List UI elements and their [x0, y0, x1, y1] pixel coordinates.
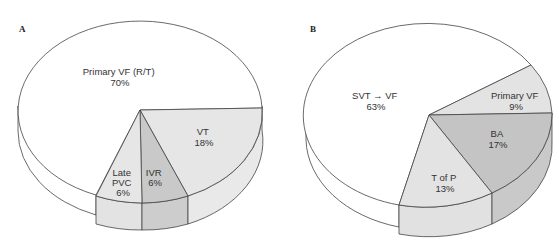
panel-label-a: A — [19, 24, 26, 34]
pie-a-label-ivr: IVR 6% — [146, 167, 164, 188]
pie-a-label-vt: VT 18% — [194, 126, 214, 148]
pie-b-label-ba: BA 17% — [488, 128, 508, 150]
pie-chart-b: B SVT → VF 63% Primary VF 9% BA 17% T of… — [303, 23, 552, 236]
panel-label-b: B — [310, 24, 316, 34]
pie-chart-a: A Primary VF (R/T) 70% VT 18% IVR 6% Lat… — [18, 21, 263, 230]
chart-canvas: A Primary VF (R/T) 70% VT 18% IVR 6% Lat… — [0, 0, 559, 247]
